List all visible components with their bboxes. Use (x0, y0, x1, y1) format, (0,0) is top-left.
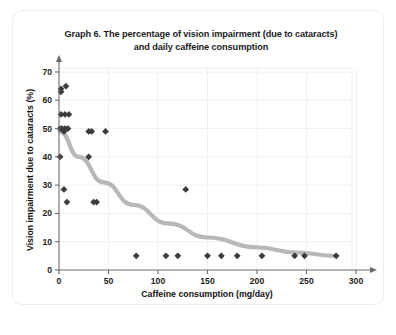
data-point (218, 252, 225, 259)
data-point (66, 111, 73, 118)
data-point (174, 252, 181, 259)
x-tick-label: 0 (57, 276, 62, 286)
data-point (163, 252, 170, 259)
y-tick-label: 0 (47, 265, 52, 275)
plot-border (59, 68, 352, 270)
x-tick-label: 150 (200, 276, 215, 286)
y-axis-label: Vision impairment due to cataracts (%) (25, 89, 35, 251)
x-tick-label: 250 (299, 276, 314, 286)
y-tick-label: 20 (42, 208, 52, 218)
y-tick-label: 70 (42, 67, 52, 77)
axes (55, 55, 377, 274)
data-point (133, 252, 140, 259)
data-point (182, 186, 189, 193)
x-tick-label: 50 (104, 276, 114, 286)
trend-line (60, 131, 336, 256)
data-point (333, 252, 340, 259)
data-point (61, 186, 68, 193)
data-point (234, 252, 241, 259)
y-tick-label: 60 (42, 95, 52, 105)
y-tick-label: 10 (42, 237, 52, 247)
x-tick-label: 200 (250, 276, 265, 286)
data-point (64, 199, 71, 206)
y-tick-label: 50 (42, 124, 52, 134)
data-points (57, 83, 340, 260)
x-axis-label: Caffeine consumption (mg/day) (141, 289, 273, 299)
data-point (259, 252, 266, 259)
scatter-plot: 050100150200250300010203040506070 Caffei… (0, 0, 396, 335)
x-tick-label: 300 (349, 276, 364, 286)
y-tick-label: 30 (42, 180, 52, 190)
x-tick-label: 100 (151, 276, 166, 286)
data-point (204, 252, 211, 259)
grid-lines (59, 68, 356, 270)
y-tick-label: 40 (42, 152, 52, 162)
